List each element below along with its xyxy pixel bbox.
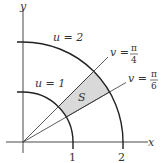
ray-label-pi-6-num: π xyxy=(151,69,157,79)
region-label-s: S xyxy=(78,91,86,104)
tick-label-2: 2 xyxy=(118,151,125,163)
x-axis-label: x xyxy=(148,136,155,149)
ray-label-pi-4-num: π xyxy=(131,43,137,53)
ray-label-pi-4-den: 4 xyxy=(131,55,137,65)
tick-label-1: 1 xyxy=(69,151,76,163)
ray-label-pi-6-den: 6 xyxy=(151,81,157,91)
ray-label-pi-4-prefix: v = xyxy=(110,46,129,59)
arc-label-u-1: u = 1 xyxy=(35,77,65,90)
ray-label-pi-6-prefix: v = xyxy=(128,72,147,85)
y-axis-label: y xyxy=(19,0,27,13)
polar-region-diagram: y x 1 2 u = 1 u = 2 S v = π 4 v = π 6 xyxy=(0,0,164,163)
arc-label-u-2: u = 2 xyxy=(53,31,83,44)
